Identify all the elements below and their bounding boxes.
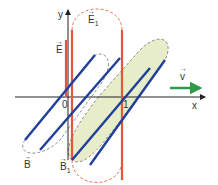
y-axis-label: y [58,10,63,20]
label-v: v [180,72,185,82]
x-axis-label: x [192,101,197,111]
field-diagram [0,0,218,185]
label-e: E [56,45,63,55]
tick-one: 1 [123,100,129,110]
label-b: B [24,160,31,170]
label-e1: E1 [88,15,99,27]
label-b1: B1 [60,162,71,174]
b-line-3 [72,68,150,160]
tick-origin: 0 [62,100,68,110]
